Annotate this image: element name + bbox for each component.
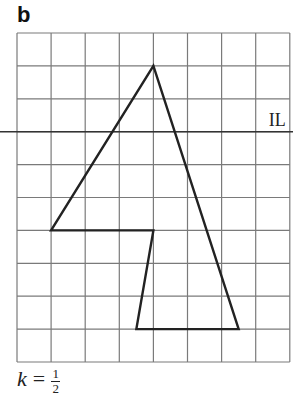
fraction: 1 2 (51, 368, 60, 394)
invariant-line-label: IL (269, 110, 286, 130)
denominator: 2 (52, 383, 59, 394)
scale-factor-label: k = 1 2 (17, 366, 60, 394)
grid-diagram: IL (0, 0, 293, 394)
numerator: 1 (52, 368, 59, 380)
equals-sign: = (33, 366, 45, 392)
scale-variable: k (17, 366, 27, 392)
